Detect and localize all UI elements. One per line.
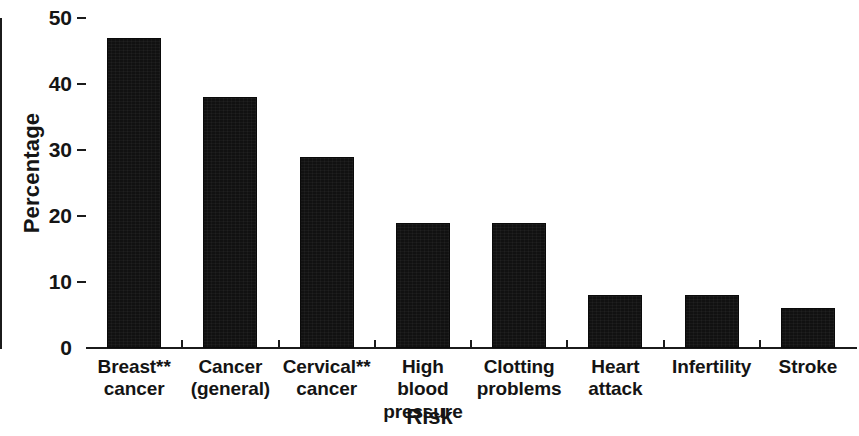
bar-chart-figure: Percentage 01020304050 Breast**cancerCan… <box>0 0 859 436</box>
x-axis-category-label: Stroke <box>760 356 856 378</box>
category-label-line-1: Cervical** <box>283 356 371 377</box>
bar <box>588 295 642 348</box>
category-label-line-2: cancer <box>279 378 375 400</box>
x-axis-tick <box>278 340 280 349</box>
y-axis-tick <box>77 83 86 85</box>
y-axis-tick-label: 30 <box>12 139 72 160</box>
y-axis-tick <box>77 215 86 217</box>
x-axis-tick <box>759 340 761 349</box>
x-axis-title: Risk <box>0 404 859 430</box>
bar <box>492 223 546 348</box>
x-axis-tick <box>181 340 183 349</box>
bar <box>685 295 739 348</box>
y-axis-tick-label: 50 <box>12 7 72 28</box>
bar <box>781 308 835 348</box>
category-label-line-2: attack <box>567 378 663 400</box>
x-axis-tick <box>663 340 665 349</box>
x-axis-category-label: Heartattack <box>567 356 663 401</box>
y-axis-line <box>0 18 2 349</box>
y-axis-tick <box>77 149 86 151</box>
category-label-line-1: Breast** <box>98 356 171 377</box>
category-label-line-1: Cancer <box>198 356 262 377</box>
bar <box>396 223 450 348</box>
y-axis-tick-label: 40 <box>12 73 72 94</box>
y-axis-tick <box>77 281 86 283</box>
x-axis-tick <box>374 340 376 349</box>
y-axis-tick-labels: 01020304050 <box>6 0 72 436</box>
category-label-line-2: problems <box>471 378 567 400</box>
x-axis-category-label: Cancer(general) <box>182 356 278 401</box>
bar <box>203 97 257 348</box>
y-axis-tick-label: 0 <box>12 337 72 358</box>
x-axis-category-label: Infertility <box>664 356 760 378</box>
category-label-line-2: (general) <box>182 378 278 400</box>
x-axis-tick <box>470 340 472 349</box>
y-axis-tick-label: 10 <box>12 271 72 292</box>
bar <box>107 38 161 348</box>
y-axis-tick <box>77 17 86 19</box>
category-label-line-1: High blood <box>397 356 448 399</box>
x-axis-category-label: Breast**cancer <box>86 356 182 401</box>
category-label-line-2: cancer <box>86 378 182 400</box>
category-label-line-1: Infertility <box>672 356 751 377</box>
y-axis-tick-label: 20 <box>12 205 72 226</box>
bar <box>300 157 354 348</box>
category-label-line-1: Stroke <box>779 356 838 377</box>
x-axis-tick <box>566 340 568 349</box>
category-label-line-1: Clotting <box>484 356 555 377</box>
x-axis-category-label: Clottingproblems <box>471 356 567 401</box>
x-axis-category-label: Cervical**cancer <box>279 356 375 401</box>
category-label-line-1: Heart <box>591 356 639 377</box>
